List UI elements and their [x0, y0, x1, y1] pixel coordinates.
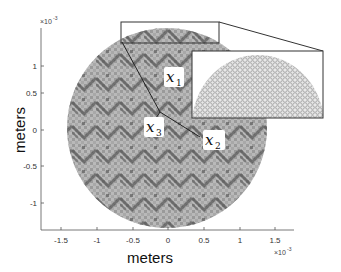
svg-text:-1.5: -1.5 [54, 236, 68, 245]
x-exponent: ×10 -3 [274, 246, 292, 256]
svg-text:3: 3 [156, 128, 162, 138]
svg-text:0: 0 [33, 126, 38, 135]
inset-connector [219, 22, 323, 51]
svg-text:0: 0 [166, 236, 171, 245]
svg-text:1: 1 [176, 78, 182, 88]
svg-text:×10: ×10 [40, 18, 52, 25]
y-exponent: ×10 -3 [40, 15, 58, 25]
svg-text:x: x [166, 68, 175, 86]
svg-text:-3: -3 [53, 15, 58, 21]
svg-text:1: 1 [33, 62, 38, 71]
label-x2: x 2 [203, 130, 225, 151]
svg-text:-3: -3 [287, 246, 292, 252]
svg-text:-1: -1 [30, 199, 38, 208]
figure-canvas: x 1 x 3 x 2 -1.5 -1 -0.5 0 0.5 1 1.5 [0, 0, 341, 272]
label-x3: x 3 [144, 117, 164, 138]
svg-text:1.5: 1.5 [269, 236, 281, 245]
y-axis-label: meters [11, 107, 28, 153]
x-tick-labels: -1.5 -1 -0.5 0 0.5 1 1.5 [54, 236, 281, 245]
svg-text:×10: ×10 [274, 249, 286, 256]
svg-text:1: 1 [238, 236, 243, 245]
svg-text:x: x [146, 118, 155, 136]
x-axis-label: meters [127, 249, 173, 266]
label-x1: x 1 [164, 67, 184, 88]
svg-text:-0.5: -0.5 [126, 236, 140, 245]
svg-text:-0.5: -0.5 [23, 162, 37, 171]
svg-text:-1: -1 [93, 236, 101, 245]
svg-text:0.5: 0.5 [26, 89, 38, 98]
svg-text:x: x [205, 131, 214, 149]
svg-text:2: 2 [215, 141, 221, 151]
svg-text:0.5: 0.5 [198, 236, 210, 245]
